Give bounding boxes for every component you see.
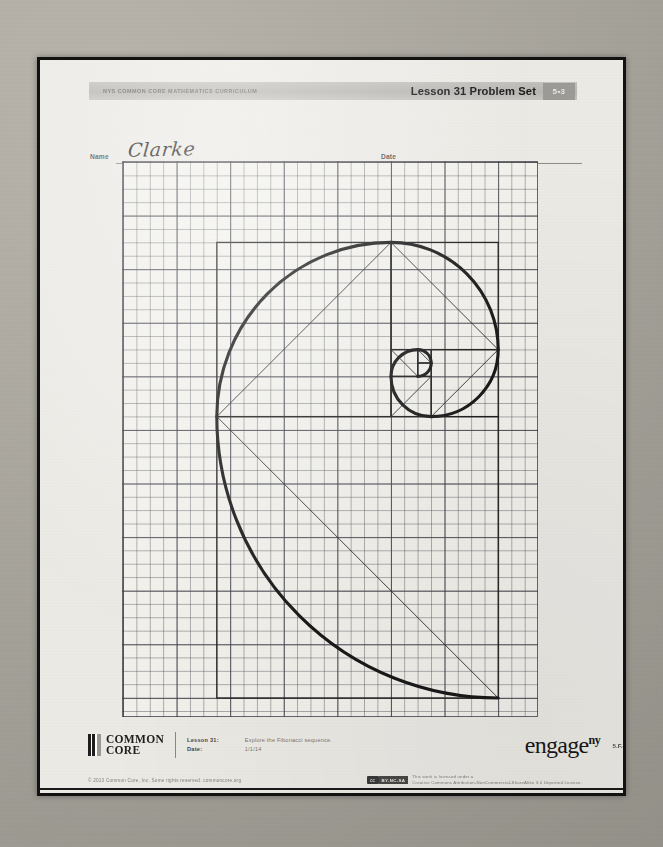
license-line2: Creative Commons Attribution-NonCommerci… (412, 780, 582, 786)
graph-paper-grid (122, 161, 538, 717)
cc-license-tag: BY-NC-SA (379, 776, 409, 784)
footer-lesson-value: Explore the Fibonacci sequence. (245, 736, 332, 745)
license-text: This work is licensed under a Creative C… (412, 774, 582, 786)
name-label: Name (90, 153, 109, 160)
common-core-wordmark: COMMON CORE (106, 734, 164, 757)
construction-diagonals (217, 242, 498, 698)
footer-meta-keys: Lesson 31: Date: (187, 736, 219, 753)
grade-module-badge: 5•3 (543, 83, 575, 100)
lesson-title: Lesson 31 Problem Set (411, 85, 536, 97)
fibonacci-spiral-curve (217, 242, 498, 698)
name-handwritten-value: Clarke (127, 137, 196, 160)
construction-squares (217, 242, 498, 698)
footer-date-value: 1/1/14 (245, 745, 332, 754)
footer-lesson-meta: Lesson 31: Date: Explore the Fibonacci s… (187, 736, 332, 753)
page-footer: COMMON CORE Lesson 31: Date: Explore the… (88, 724, 626, 766)
footer-date-key: Date: (187, 745, 219, 754)
common-core-logo: COMMON CORE (88, 734, 164, 757)
footer-bottom-rule (40, 788, 623, 790)
date-label: Date (381, 153, 396, 160)
footer-lesson-key: Lesson 31: (187, 736, 219, 745)
cc-circle-icon: cc (367, 776, 379, 784)
fibonacci-spiral-drawing (123, 162, 539, 718)
footer-meta-values: Explore the Fibonacci sequence. 1/1/14 (245, 736, 332, 753)
engageny-main: engage (525, 732, 589, 758)
common-core-bars-icon (88, 734, 101, 756)
standard-reference: 5.F.4 (613, 742, 626, 749)
license-block: cc BY-NC-SA This work is licensed under … (367, 774, 582, 786)
curriculum-header-band: NYS COMMON CORE MATHEMATICS CURRICULUM L… (89, 82, 577, 100)
worksheet-page: NYS COMMON CORE MATHEMATICS CURRICULUM L… (37, 57, 626, 796)
common-core-line2: CORE (106, 745, 164, 756)
copyright-text: © 2013 Common Core, Inc. Some rights res… (88, 778, 241, 783)
engageny-superscript: ny (589, 733, 601, 747)
footer-divider (175, 732, 176, 758)
creative-commons-badge-icon: cc BY-NC-SA (367, 776, 409, 784)
curriculum-title: NYS COMMON CORE MATHEMATICS CURRICULUM (103, 88, 257, 95)
copyright-strip: © 2013 Common Core, Inc. Some rights res… (88, 772, 626, 788)
engageny-logo: engageny (525, 733, 601, 757)
